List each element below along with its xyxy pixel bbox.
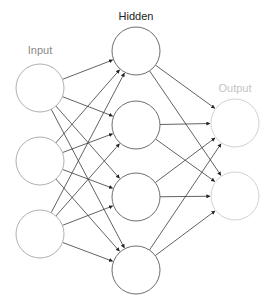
connection-arrow [160, 124, 210, 125]
input-node-1 [16, 64, 64, 112]
nodes [16, 27, 259, 294]
connection-arrow [155, 211, 215, 256]
connection-arrow [56, 144, 120, 216]
connection-arrow [56, 70, 120, 143]
connection-arrow [56, 179, 120, 251]
hidden-node-3 [112, 173, 160, 221]
output-node-2 [211, 172, 259, 220]
input-layer-label: Input [28, 44, 52, 56]
output-node-1 [211, 99, 259, 147]
output-layer-label: Output [218, 82, 251, 94]
connection-arrow [62, 169, 112, 188]
hidden-node-4 [112, 246, 160, 294]
connection-arrow [155, 65, 214, 108]
connection-arrow [155, 138, 215, 183]
connection-edges [51, 60, 221, 261]
connection-arrow [62, 60, 112, 79]
connection-arrow [56, 106, 120, 178]
hidden-node-2 [112, 101, 160, 149]
hidden-node-1 [112, 27, 160, 75]
connection-arrow [62, 206, 112, 225]
neural-network-diagram: InputHiddenOutput [0, 0, 267, 306]
input-node-2 [16, 137, 64, 185]
connection-arrow [62, 242, 112, 261]
hidden-layer-label: Hidden [119, 10, 154, 22]
input-node-3 [16, 210, 64, 258]
